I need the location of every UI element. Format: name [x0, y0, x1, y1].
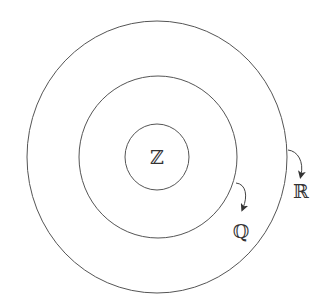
label-integers: ℤ [150, 146, 164, 168]
arrow-to-rationals [236, 183, 246, 208]
nested-sets-diagram: ℤ ℚ ℝ [0, 0, 332, 304]
arrow-to-reals [288, 150, 302, 175]
label-reals: ℝ [293, 180, 309, 202]
label-rationals: ℚ [233, 220, 250, 242]
